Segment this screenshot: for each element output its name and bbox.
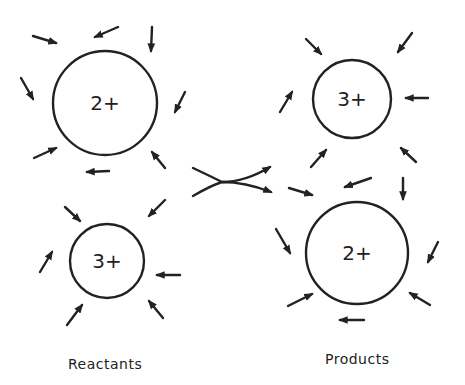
reactants-label: Reactants bbox=[68, 356, 142, 372]
solvent-dipole-arrow-icon bbox=[175, 92, 185, 112]
solvent-dipole-arrow-icon bbox=[401, 148, 416, 162]
solvent-dipole-arrow-icon bbox=[65, 207, 80, 221]
products-ion-3plus: 3+ bbox=[280, 33, 428, 167]
solvent-dipole-arrow-icon bbox=[33, 36, 56, 43]
reactants-ion-3plus: 3+ bbox=[40, 200, 180, 325]
solvent-dipole-arrow-icon bbox=[149, 301, 163, 318]
ion-charge-label: 2+ bbox=[342, 241, 371, 265]
solvent-dipole-arrow-icon bbox=[152, 152, 165, 168]
solvent-dipole-arrow-icon bbox=[34, 148, 56, 158]
solvent-dipole-arrow-icon bbox=[428, 242, 438, 262]
ion-charge-label: 2+ bbox=[90, 91, 119, 115]
ion-charge-label: 3+ bbox=[92, 249, 121, 273]
solvent-dipole-arrow-icon bbox=[151, 27, 152, 51]
solvent-dipole-arrow-icon bbox=[410, 293, 430, 305]
solvent-dipole-arrow-icon bbox=[21, 78, 33, 99]
solvent-dipole-arrow-icon bbox=[40, 252, 52, 272]
solvent-dipole-arrow-icon bbox=[67, 305, 82, 325]
solvent-dipole-arrow-icon bbox=[311, 150, 326, 167]
solvent-dipole-arrow-icon bbox=[306, 39, 321, 54]
solvent-dipole-arrow-icon bbox=[398, 33, 412, 52]
exchange-arrow-icon bbox=[193, 167, 271, 196]
reactants-ion-2plus: 2+ bbox=[21, 27, 185, 172]
solvent-dipole-arrow-icon bbox=[288, 294, 312, 306]
products-ion-2plus: 2+ bbox=[276, 178, 438, 320]
products-label: Products bbox=[325, 351, 389, 367]
solvent-dipole-arrow-icon bbox=[345, 178, 371, 187]
solvent-dipole-arrow-icon bbox=[280, 92, 292, 112]
electron-transfer-diagram: 2+3+3+2+ bbox=[0, 0, 465, 385]
solvent-dipole-arrow-icon bbox=[95, 27, 118, 37]
solvent-dipole-arrow-icon bbox=[87, 171, 109, 172]
solvent-dipole-arrow-icon bbox=[149, 200, 165, 216]
ion-charge-label: 3+ bbox=[337, 87, 366, 111]
solvent-dipole-arrow-icon bbox=[276, 229, 290, 253]
solvent-dipole-arrow-icon bbox=[289, 188, 312, 195]
